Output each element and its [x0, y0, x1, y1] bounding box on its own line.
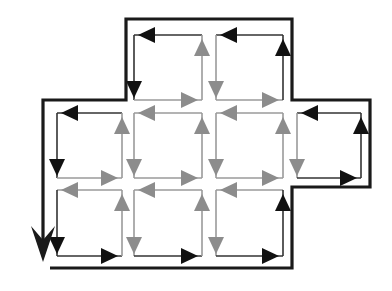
circulation-diagram — [0, 0, 392, 291]
